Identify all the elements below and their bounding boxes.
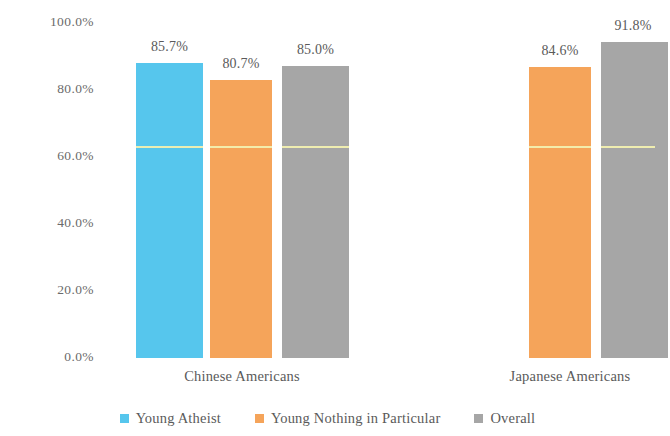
bar-chinese-young-nothing[interactable] bbox=[210, 80, 272, 358]
legend-label: Young Atheist bbox=[136, 411, 221, 426]
reference-line-segment bbox=[601, 146, 655, 148]
bar-label-chinese-young-nothing: 80.7% bbox=[209, 57, 273, 71]
bar-chinese-young-atheist[interactable] bbox=[136, 63, 203, 358]
legend-label: Overall bbox=[490, 411, 535, 426]
category-label-chinese-americans: Chinese Americans bbox=[142, 369, 342, 384]
bar-label-japanese-overall: 91.8% bbox=[600, 19, 666, 33]
bar-label-chinese-overall: 85.0% bbox=[282, 43, 349, 57]
chart-legend: Young Atheist Young Nothing in Particula… bbox=[0, 404, 655, 432]
bar-japanese-overall[interactable] bbox=[601, 42, 668, 358]
legend-swatch-icon bbox=[120, 414, 129, 423]
category-label-japanese-americans: Japanese Americans bbox=[470, 369, 670, 384]
reference-line-segment bbox=[529, 146, 591, 148]
bar-japanese-young-nothing[interactable] bbox=[529, 67, 591, 358]
reference-line-segment bbox=[210, 146, 272, 148]
reference-line-segment bbox=[282, 146, 349, 148]
legend-item-young-atheist[interactable]: Young Atheist bbox=[120, 411, 221, 426]
reference-line-segment bbox=[136, 146, 203, 148]
legend-item-young-nothing-in-particular[interactable]: Young Nothing in Particular bbox=[255, 411, 440, 426]
bar-chinese-overall[interactable] bbox=[282, 66, 349, 358]
bar-label-japanese-young-nothing: 84.6% bbox=[528, 44, 592, 58]
plot-area: 85.7% 80.7% 85.0% 84.6% 91.8% Chinese Am… bbox=[0, 0, 655, 380]
legend-swatch-icon bbox=[474, 414, 483, 423]
legend-swatch-icon bbox=[255, 414, 264, 423]
legend-label: Young Nothing in Particular bbox=[271, 411, 440, 426]
bar-label-chinese-young-atheist: 85.7% bbox=[136, 40, 203, 54]
legend-item-overall[interactable]: Overall bbox=[474, 411, 535, 426]
